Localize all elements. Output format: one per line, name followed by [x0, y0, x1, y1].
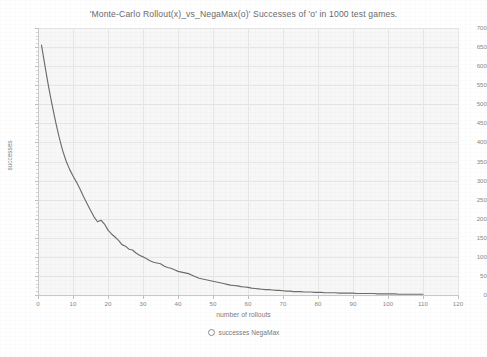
x-tick-label: 30 [131, 300, 155, 307]
y-tick-label: 550 [457, 82, 487, 88]
y-tick-label: 50 [457, 273, 487, 279]
y-tick-label: 200 [457, 216, 487, 222]
y-tick-label: 650 [457, 44, 487, 50]
x-tick-mark [283, 296, 284, 299]
y-tick-label: 0 [457, 292, 487, 298]
x-tick-label: 0 [26, 300, 50, 307]
circle-open-marker [208, 329, 215, 336]
y-tick-label: 600 [457, 63, 487, 69]
x-axis-label: number of rollouts [0, 311, 487, 318]
chart-legend: successes NegaMax [0, 329, 487, 336]
x-tick-label: 110 [411, 300, 435, 307]
x-tick-mark [178, 296, 179, 299]
legend-entry-label: successes NegaMax [219, 329, 280, 336]
y-tick-label: 450 [457, 120, 487, 126]
x-tick-label: 60 [236, 300, 260, 307]
series-line-successes-negamax [38, 28, 458, 295]
x-tick-mark [353, 296, 354, 299]
x-tick-label: 120 [446, 300, 470, 307]
y-tick-label: 700 [457, 25, 487, 31]
x-tick-mark [423, 296, 424, 299]
x-tick-mark [73, 296, 74, 299]
y-tick-label: 500 [457, 101, 487, 107]
x-tick-label: 100 [376, 300, 400, 307]
y-tick-label: 100 [457, 254, 487, 260]
x-tick-label: 80 [306, 300, 330, 307]
x-tick-mark [388, 296, 389, 299]
chart-title: 'Monte-Carlo Rollout(x)_vs_NegaMax(o)' S… [0, 9, 487, 19]
x-tick-label: 50 [201, 300, 225, 307]
x-tick-label: 90 [341, 300, 365, 307]
y-axis-label: successes [6, 128, 13, 184]
y-tick-label: 350 [457, 159, 487, 165]
x-tick-mark [318, 296, 319, 299]
y-tick-label: 300 [457, 178, 487, 184]
x-tick-mark [38, 296, 39, 299]
x-tick-label: 10 [61, 300, 85, 307]
x-tick-label: 20 [96, 300, 120, 307]
chart-figure: 'Monte-Carlo Rollout(x)_vs_NegaMax(o)' S… [0, 0, 487, 357]
series-polyline [42, 45, 424, 294]
y-tick-label: 150 [457, 235, 487, 241]
y-tick-label: 400 [457, 139, 487, 145]
x-tick-mark [143, 296, 144, 299]
y-tick-label: 250 [457, 197, 487, 203]
x-tick-label: 40 [166, 300, 190, 307]
x-tick-mark [458, 296, 459, 299]
x-tick-mark [213, 296, 214, 299]
x-tick-mark [248, 296, 249, 299]
x-tick-label: 70 [271, 300, 295, 307]
x-tick-mark [108, 296, 109, 299]
